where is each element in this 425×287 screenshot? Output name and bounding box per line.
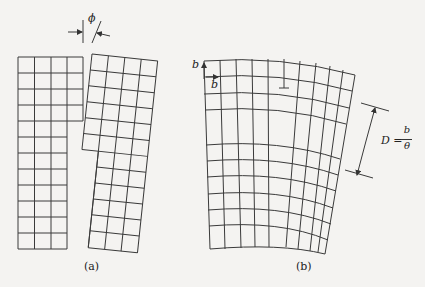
burgers-vector-arrows — [204, 63, 218, 79]
diagram-svg — [0, 0, 425, 287]
spacing-denominator: θ — [402, 140, 412, 151]
panel-b-lattice — [204, 59, 355, 254]
panel-b-label: (b) — [296, 260, 312, 273]
tilt-angle-label: ϕ — [88, 12, 96, 25]
burgers-horizontal-label: b — [211, 78, 218, 91]
panel-a-label: (a) — [84, 260, 99, 273]
burgers-vertical-label: b — [192, 58, 199, 71]
panel-a-tilted-block — [72, 54, 158, 253]
panel-a-left-block — [18, 57, 83, 249]
spacing-numerator: b — [402, 124, 412, 135]
figure-canvas: ϕ (a) (b) b b D = b θ — [0, 0, 425, 287]
spacing-lhs: D = — [381, 134, 403, 147]
